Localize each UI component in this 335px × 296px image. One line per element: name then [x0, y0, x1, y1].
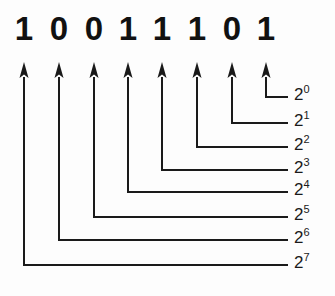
exponent-label-2-pow-7: 27 [294, 254, 310, 272]
exponent-label-superscript: 2 [303, 133, 309, 145]
exponent-label-superscript: 6 [303, 226, 309, 238]
exponent-label-2-pow-1: 21 [294, 112, 310, 130]
exponent-label-superscript: 1 [303, 109, 309, 121]
exponent-label-superscript: 3 [303, 156, 309, 168]
binary-place-value-diagram: 10011101 2021222324252627 [0, 0, 335, 296]
exponent-label-superscript: 0 [303, 83, 309, 95]
exponent-label-2-pow-0: 20 [294, 86, 310, 104]
exponent-label-column: 2021222324252627 [0, 0, 335, 296]
exponent-label-superscript: 5 [303, 203, 309, 215]
exponent-label-superscript: 4 [303, 178, 309, 190]
exponent-label-2-pow-5: 25 [294, 206, 310, 224]
exponent-label-superscript: 7 [303, 251, 309, 263]
exponent-label-2-pow-4: 24 [294, 181, 310, 199]
exponent-label-2-pow-3: 23 [294, 159, 310, 177]
exponent-label-2-pow-2: 22 [294, 136, 310, 154]
exponent-label-2-pow-6: 26 [294, 229, 310, 247]
